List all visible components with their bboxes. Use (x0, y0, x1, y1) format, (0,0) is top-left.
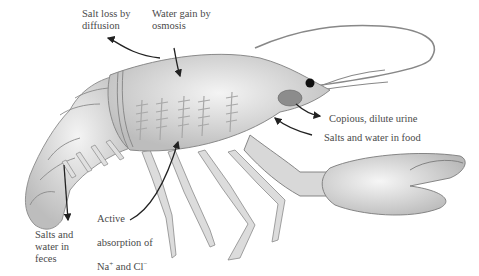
label-na: Na (97, 261, 109, 272)
arrow-food (275, 118, 312, 135)
label-cl-charge: − (144, 260, 148, 268)
label-food: Salts and water in food (324, 132, 421, 144)
label-urine: Copious, dilute urine (329, 113, 417, 125)
label-active-absorption: Active absorption of Na+ and Cl− (97, 201, 153, 276)
label-water-gain: Water gain by osmosis (152, 8, 211, 32)
label-cl: and Cl (113, 261, 143, 272)
arrow-salt-loss (108, 38, 160, 58)
eye (306, 79, 315, 88)
label-salt-loss: Salt loss by diffusion (82, 8, 130, 32)
antennal-gland (278, 90, 302, 106)
crayfish-osmoregulation-diagram: Salt loss by diffusion Water gain by osm… (0, 0, 479, 276)
label-feces: Salts and water in feces (35, 229, 73, 265)
label-active-line3: Na+ and Cl− (97, 261, 153, 273)
label-active-line1: Active (97, 213, 153, 225)
label-active-line2: absorption of (97, 237, 153, 249)
